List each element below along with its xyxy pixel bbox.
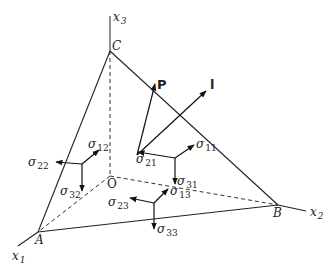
point-C-label: C — [112, 40, 121, 52]
sigma11-label: σ11 — [196, 138, 217, 153]
sigma11-arrow — [175, 145, 194, 158]
sigma13-label: σ13 — [170, 185, 191, 200]
point-B-label: B — [273, 207, 282, 219]
sigma12-label: σ12 — [88, 138, 109, 153]
sigma21-label: σ21 — [136, 153, 157, 168]
x2-axis-label: x2 — [310, 206, 324, 221]
sigma22-arrow — [56, 162, 82, 164]
point-A-label: A — [35, 234, 44, 246]
stress-tetrahedron-diagram: x3 x1 x2 C A B O P l σ22 σ12 σ32 σ21 σ11… — [0, 0, 336, 270]
sigma13-arrow — [154, 189, 168, 203]
sigma23-arrow — [130, 198, 154, 203]
x2-axis-line — [278, 205, 306, 211]
traction-vector-P-arrow — [137, 84, 155, 155]
x1-axis-label: x1 — [12, 250, 26, 265]
sigma33-label: σ33 — [157, 223, 178, 238]
sigma32-label: σ32 — [60, 185, 81, 200]
origin-O-label: O — [107, 178, 117, 190]
vector-P-label: P — [157, 78, 167, 91]
vector-l-label: l — [210, 78, 214, 91]
sigma23-label: σ23 — [108, 196, 129, 211]
x3-axis-label: x3 — [113, 11, 127, 26]
sigma22-label: σ22 — [28, 156, 49, 171]
